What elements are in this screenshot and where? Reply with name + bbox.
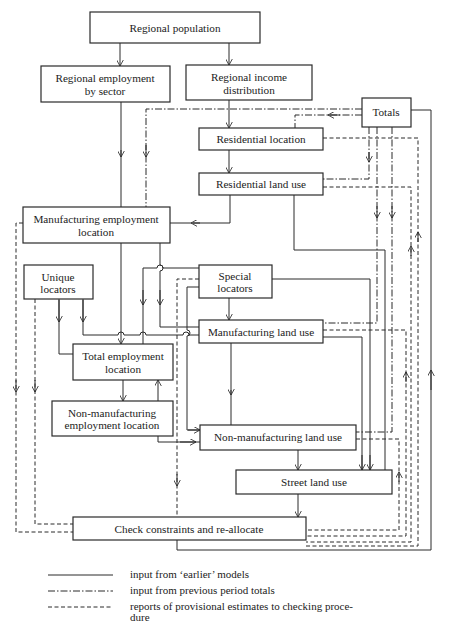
legend-dashdot-label: input from previous period totals — [130, 584, 275, 596]
node-label: locators — [217, 282, 252, 294]
node-label: Non-manufacturing land use — [214, 431, 342, 443]
node-regional-population: Regional population — [90, 12, 260, 43]
node-regional-income-distribution: Regional income distribution — [186, 65, 312, 100]
node-label: Check constraints and re-allocate — [115, 523, 264, 535]
node-label: Regional income — [211, 71, 287, 83]
node-check-constraints: Check constraints and re-allocate — [73, 517, 306, 540]
node-label: Street land use — [281, 476, 347, 488]
node-label: employment location — [65, 419, 160, 431]
node-regional-employment-by-sector: Regional employment by sector — [41, 66, 170, 102]
node-totals: Totals — [362, 98, 411, 127]
node-label: Regional employment — [55, 72, 155, 84]
legend-dashed-label: reports of provisional estimates to chec… — [130, 600, 353, 612]
flow-diagram: Regional population Regional employment … — [0, 0, 449, 628]
legend-solid-label: input from ‘earlier’ models — [130, 568, 249, 580]
node-residential-location: Residential location — [199, 128, 323, 150]
node-non-manufacturing-employment-location: Non-manufacturing employment location — [52, 401, 173, 436]
legend-dashed-label-cont: dure — [130, 611, 150, 623]
node-label: Residential land use — [216, 178, 306, 190]
node-label: Regional population — [129, 22, 220, 34]
node-residential-land-use: Residential land use — [199, 173, 323, 195]
node-label: by sector — [85, 85, 126, 97]
node-special-locators: Special locators — [199, 265, 272, 298]
node-label: Manufacturing land use — [208, 326, 314, 338]
node-label: location — [78, 226, 114, 238]
node-non-manufacturing-land-use: Non-manufacturing land use — [200, 425, 356, 450]
node-label: Special — [219, 270, 252, 282]
node-manufacturing-land-use: Manufacturing land use — [199, 320, 323, 343]
node-label: Non-manufacturing — [68, 407, 157, 419]
node-unique-locators: Unique locators — [24, 265, 93, 299]
node-label: locators — [40, 283, 75, 295]
node-total-employment-location: Total employment location — [73, 344, 173, 380]
node-manufacturing-employment-location: Manufacturing employment location — [23, 207, 170, 243]
node-label: Totals — [372, 106, 399, 118]
node-label: Manufacturing employment — [33, 213, 159, 225]
node-label: location — [105, 363, 141, 375]
node-street-land-use: Street land use — [236, 470, 392, 494]
node-label: Residential location — [216, 133, 306, 145]
node-label: Total employment — [82, 350, 164, 362]
legend: input from ‘earlier’ models input from p… — [48, 568, 353, 623]
node-label: Unique — [42, 271, 75, 283]
node-label: distribution — [223, 84, 275, 96]
